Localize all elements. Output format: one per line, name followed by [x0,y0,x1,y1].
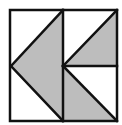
quilt-block-diagram [0,0,122,125]
